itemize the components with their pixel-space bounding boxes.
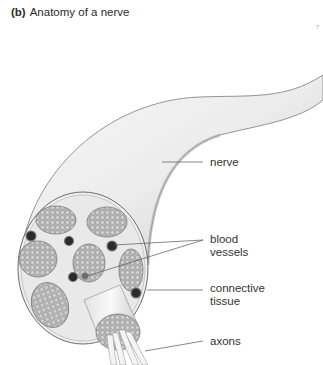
label-connective-line2: tissue xyxy=(210,295,265,308)
leader-axons xyxy=(145,341,203,351)
axons xyxy=(107,330,148,365)
label-connective-tissue: connective tissue xyxy=(210,282,265,308)
label-axons: axons xyxy=(210,335,241,348)
nerve-illustration xyxy=(0,0,323,365)
label-blood-line2: vessels xyxy=(210,246,248,259)
label-connective-line1: connective xyxy=(210,282,265,295)
label-blood-line1: blood xyxy=(210,233,248,246)
label-nerve: nerve xyxy=(210,156,239,169)
label-blood-vessels: blood vessels xyxy=(210,233,248,259)
cross-section xyxy=(18,192,148,365)
